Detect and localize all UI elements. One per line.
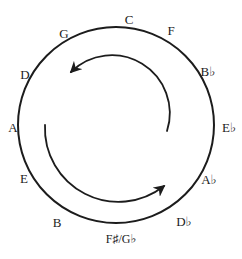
note-label-e-flat: E♭ — [222, 120, 236, 135]
curved-arrow-counterclockwise-bottom-icon — [45, 125, 164, 202]
curved-arrow-counterclockwise-top-icon — [71, 55, 170, 131]
circle-of-fifths-canvas: C F B♭ E♭ A♭ D♭ F♯/G♭ B E A D G — [0, 0, 242, 259]
note-label-d: D — [20, 67, 29, 82]
note-label-d-flat: D♭ — [176, 214, 192, 229]
note-label-e: E — [20, 171, 28, 186]
note-label-b-flat: B♭ — [201, 64, 216, 79]
note-label-g: G — [59, 26, 68, 41]
note-label-b: B — [53, 215, 62, 230]
circle-outline — [18, 27, 214, 223]
note-label-c: C — [125, 12, 134, 27]
circle-of-fifths-figure: C F B♭ E♭ A♭ D♭ F♯/G♭ B E A D G — [0, 0, 242, 259]
note-label-f: F — [167, 23, 174, 38]
note-label-a: A — [8, 120, 18, 135]
note-label-f-sharp-g-flat: F♯/G♭ — [106, 232, 136, 246]
note-label-a-flat: A♭ — [201, 172, 217, 187]
